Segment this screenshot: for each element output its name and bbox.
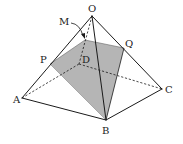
m-arrowhead-icon xyxy=(81,33,85,39)
edge-bc xyxy=(106,89,162,120)
label-p: P xyxy=(40,54,47,65)
pyramid-diagram: O M Q P D A C B xyxy=(0,0,183,144)
label-d: D xyxy=(82,54,90,65)
label-c: C xyxy=(165,84,173,95)
label-b: B xyxy=(102,125,109,136)
label-a: A xyxy=(12,94,21,105)
label-m: M xyxy=(59,16,69,27)
label-o: O xyxy=(88,3,96,14)
label-q: Q xyxy=(125,38,133,49)
